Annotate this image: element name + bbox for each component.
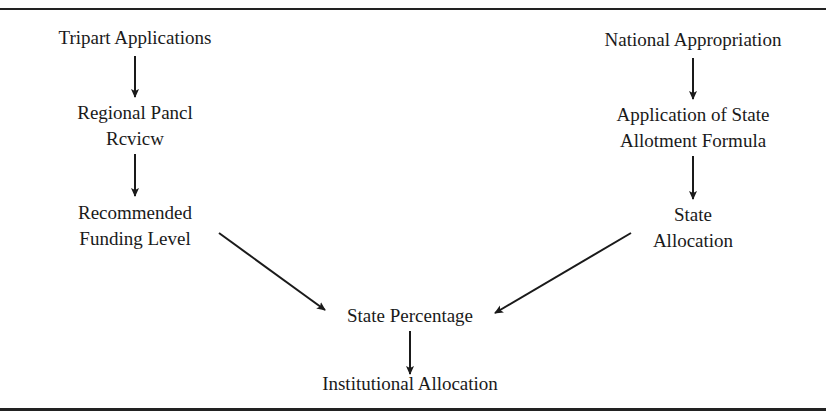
node-label-line2: Allocation <box>653 228 733 254</box>
arrow-diagonal-icon <box>219 233 325 310</box>
node-institutional-allocation: Institutional Allocation <box>322 371 498 397</box>
node-label-line1: Regional Pancl <box>77 100 193 126</box>
node-label-line2: Allotment Formula <box>616 128 769 154</box>
node-tripart-applications: Tripart Applications <box>59 25 212 51</box>
node-label: State Percentage <box>347 303 473 329</box>
node-recommended-funding-level: Recommended Funding Level <box>78 200 192 252</box>
node-label-line1: Recommended <box>78 200 192 226</box>
node-national-appropriation: National Appropriation <box>605 27 782 53</box>
node-label: Tripart Applications <box>59 25 212 51</box>
bottom-rule <box>0 408 826 411</box>
node-label: Institutional Allocation <box>322 371 498 397</box>
arrow-diagonal-icon <box>495 233 631 313</box>
node-state-allocation: State Allocation <box>653 202 733 254</box>
node-state-percentage: State Percentage <box>347 303 473 329</box>
node-label-line2: Funding Level <box>78 226 192 252</box>
node-label-line1: State <box>653 202 733 228</box>
node-label: National Appropriation <box>605 27 782 53</box>
node-regional-panel-review: Regional Pancl Rcvicw <box>77 100 193 152</box>
node-application-of-state-allotment-formula: Application of State Allotment Formula <box>616 102 769 154</box>
node-label-line1: Application of State <box>616 102 769 128</box>
node-label-line2: Rcvicw <box>77 126 193 152</box>
top-rule <box>0 8 826 10</box>
